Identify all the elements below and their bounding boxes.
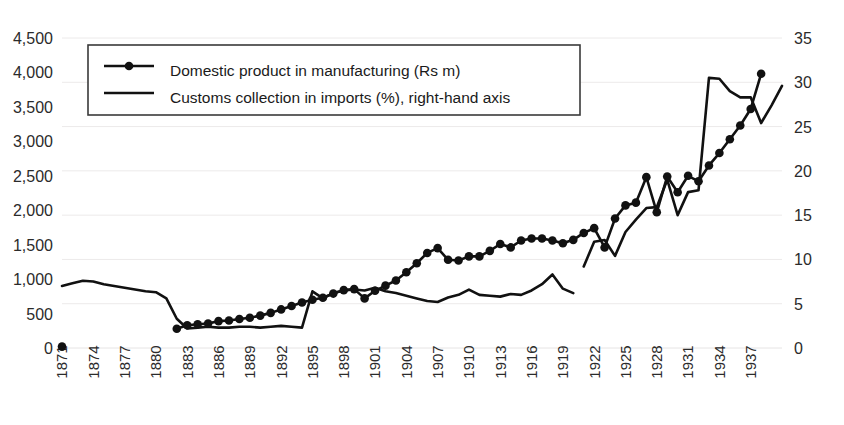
data-point-marker	[600, 243, 609, 252]
data-point-marker	[486, 247, 495, 256]
y-axis-right-tick-label: 20	[794, 163, 812, 180]
data-point-marker	[746, 105, 755, 114]
y-axis-right-tick-label: 30	[794, 74, 812, 91]
x-axis-tick-label: 1928	[648, 345, 665, 378]
y-axis-right-tick-label: 0	[794, 340, 803, 357]
x-axis-tick-label: 1934	[711, 345, 728, 378]
data-point-marker	[684, 171, 693, 180]
data-point-marker	[496, 240, 505, 249]
x-axis-tick-label: 1937	[742, 345, 759, 378]
y-axis-right-tick-label: 10	[794, 251, 812, 268]
data-point-marker	[287, 302, 296, 311]
y-axis-left-tick-label: 1,500	[13, 237, 53, 254]
x-axis-labels: 1871187418771880188318861889189218951898…	[53, 345, 759, 378]
y-axis-left-tick-label: 1,000	[13, 271, 53, 288]
data-point-marker	[559, 239, 568, 248]
y-axis-left-tick-label: 0	[44, 340, 53, 357]
x-axis-tick-label: 1889	[241, 345, 258, 378]
data-point-marker	[694, 177, 703, 186]
data-point-marker	[611, 214, 620, 223]
data-point-marker	[632, 198, 641, 207]
data-point-marker	[235, 315, 244, 324]
x-axis-tick-label: 1916	[523, 345, 540, 378]
data-point-marker	[673, 188, 682, 197]
x-axis-tick-label: 1883	[179, 345, 196, 378]
data-point-marker	[569, 236, 578, 245]
data-point-marker	[193, 320, 202, 329]
y-axis-left-tick-label: 3,000	[13, 133, 53, 150]
data-point-marker	[652, 208, 661, 217]
data-point-marker	[329, 289, 338, 298]
legend-item-label: Domestic product in manufacturing (Rs m)	[170, 62, 460, 79]
y-axis-left-tick-label: 3,500	[13, 99, 53, 116]
data-point-marker	[183, 321, 192, 330]
x-axis-tick-label: 1874	[85, 345, 102, 378]
data-point-marker	[433, 244, 442, 253]
x-axis-tick-label: 1880	[147, 345, 164, 378]
data-point-marker	[590, 224, 599, 233]
x-axis-tick-label: 1919	[554, 345, 571, 378]
x-axis-tick-label: 1877	[116, 345, 133, 378]
legend-item-label: Customs collection in imports (%), right…	[170, 89, 511, 106]
x-axis-tick-label: 1925	[617, 345, 634, 378]
data-point-marker	[402, 268, 411, 277]
x-axis-tick-label: 1904	[398, 345, 415, 378]
data-point-marker	[214, 317, 223, 326]
y-axis-right-tick-label: 35	[794, 30, 812, 47]
data-point-marker	[726, 135, 735, 144]
data-point-marker	[350, 285, 359, 294]
data-point-marker	[392, 276, 401, 285]
data-point-marker	[381, 281, 390, 290]
y-axis-right-tick-label: 25	[794, 119, 812, 136]
data-point-marker	[642, 173, 651, 182]
x-axis-tick-label: 1892	[273, 345, 290, 378]
data-point-marker	[308, 295, 317, 304]
x-axis-tick-label: 1907	[429, 345, 446, 378]
data-point-marker	[579, 229, 588, 238]
x-axis-tick-label: 1898	[335, 345, 352, 378]
data-point-marker	[339, 286, 348, 295]
data-point-marker	[517, 236, 526, 245]
x-axis-tick-label: 1931	[679, 345, 696, 378]
data-point-marker	[371, 287, 380, 296]
data-point-marker	[256, 311, 265, 320]
y-axis-left-tick-label: 500	[26, 306, 53, 323]
y-axis-left-tick-label: 2,000	[13, 202, 53, 219]
data-point-marker	[454, 256, 463, 265]
data-point-marker	[621, 201, 630, 210]
data-point-marker	[266, 309, 275, 318]
data-point-marker	[319, 293, 328, 302]
x-axis-tick-label: 1910	[460, 345, 477, 378]
y-axis-left-tick-label: 4,000	[13, 64, 53, 81]
data-point-marker	[506, 243, 515, 252]
data-point-marker	[246, 313, 255, 322]
chart-legend: Domestic product in manufacturing (Rs m)…	[88, 45, 580, 115]
data-point-marker	[548, 236, 557, 245]
data-point-marker	[736, 121, 745, 130]
data-point-marker	[475, 252, 484, 261]
data-point-marker	[715, 149, 724, 158]
data-point-marker	[204, 319, 213, 328]
data-point-marker	[444, 256, 453, 265]
data-point-marker	[298, 298, 307, 307]
y-axis-left-tick-label: 4,500	[13, 30, 53, 47]
data-point-marker	[538, 234, 547, 243]
data-point-marker	[360, 294, 369, 303]
data-point-marker	[58, 342, 67, 351]
x-axis-tick-label: 1922	[586, 345, 603, 378]
manufacturing-customs-chart: 05001,0001,5002,0002,5003,0003,5004,0004…	[0, 0, 844, 425]
data-point-marker	[663, 172, 672, 181]
x-axis-tick-label: 1895	[304, 345, 321, 378]
data-point-marker	[705, 161, 714, 170]
data-point-marker	[412, 259, 421, 268]
y-axis-right-tick-label: 15	[794, 207, 812, 224]
data-point-marker	[277, 305, 286, 314]
data-point-marker	[465, 252, 474, 261]
x-axis-tick-label: 1886	[210, 345, 227, 378]
chart-container: 05001,0001,5002,0002,5003,0003,5004,0004…	[0, 0, 844, 425]
data-point-marker	[225, 316, 234, 325]
x-axis-tick-label: 1913	[492, 345, 509, 378]
data-point-marker	[423, 249, 432, 258]
data-point-marker	[527, 234, 536, 243]
x-axis-tick-label: 1901	[366, 345, 383, 378]
